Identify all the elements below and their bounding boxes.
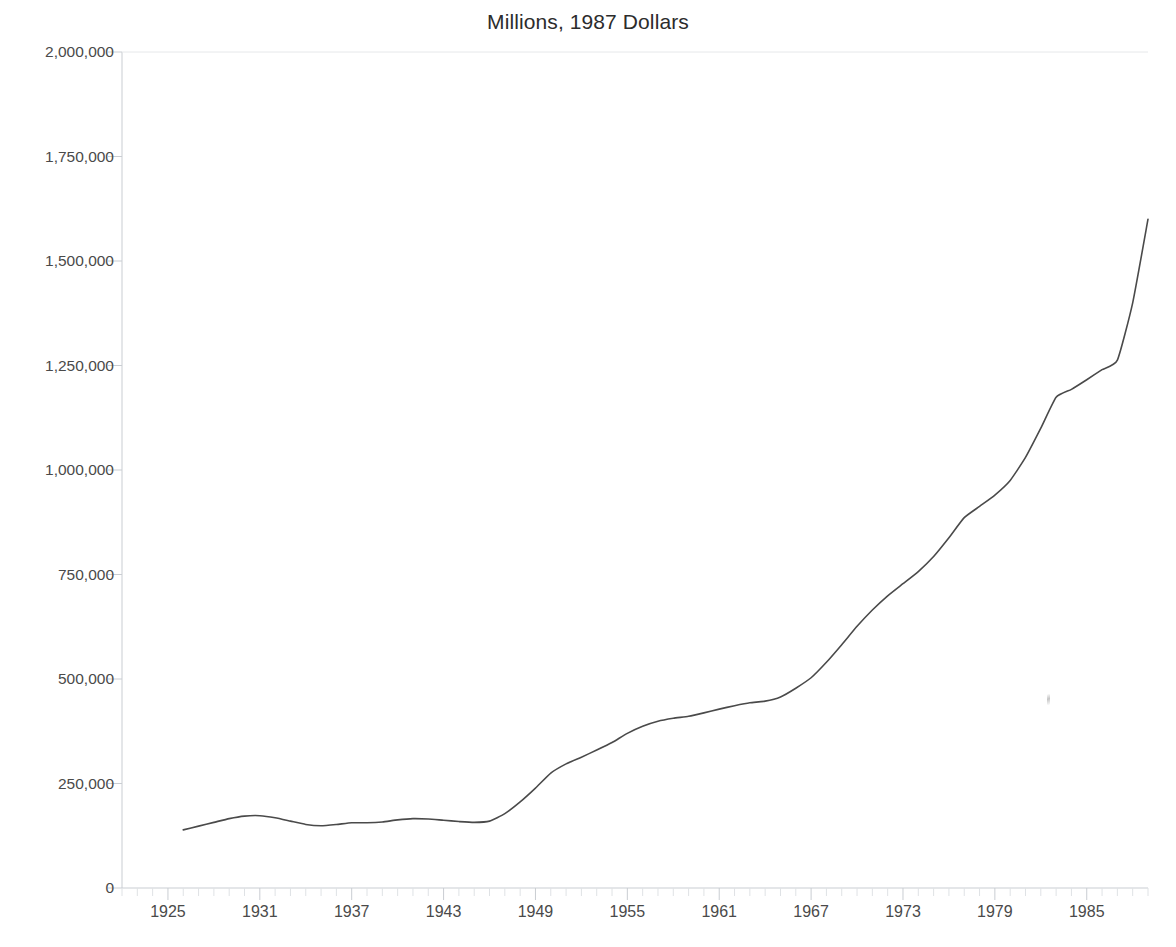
plot-canvas <box>0 0 1176 947</box>
x-tick-label: 1937 <box>334 903 370 921</box>
x-tick-label: 1931 <box>242 903 278 921</box>
y-tick-label: 1,000,000 <box>45 461 114 479</box>
y-tick-label: 1,500,000 <box>45 252 114 270</box>
y-tick-label: 1,750,000 <box>45 148 114 166</box>
y-tick-label: 0 <box>105 879 114 897</box>
scan-artifact-speck <box>1047 694 1050 705</box>
y-tick-label: 500,000 <box>58 670 114 688</box>
x-axis-ticks <box>122 888 1148 900</box>
x-tick-label: 1925 <box>150 903 186 921</box>
x-tick-label: 1979 <box>977 903 1013 921</box>
x-tick-label: 1967 <box>793 903 829 921</box>
chart-figure: Millions, 1987 Dollars 0250,000500,00075… <box>0 0 1176 947</box>
y-tick-label: 2,000,000 <box>45 43 114 61</box>
y-tick-label: 750,000 <box>58 566 114 584</box>
x-tick-label: 1955 <box>610 903 646 921</box>
y-tick-label: 1,250,000 <box>45 357 114 375</box>
plot-frame <box>122 52 1148 888</box>
x-tick-label: 1973 <box>885 903 921 921</box>
x-tick-label: 1985 <box>1069 903 1105 921</box>
data-series-line <box>183 219 1148 830</box>
x-tick-label: 1961 <box>701 903 737 921</box>
y-tick-label: 250,000 <box>58 775 114 793</box>
x-tick-label: 1943 <box>426 903 462 921</box>
x-tick-label: 1949 <box>518 903 554 921</box>
